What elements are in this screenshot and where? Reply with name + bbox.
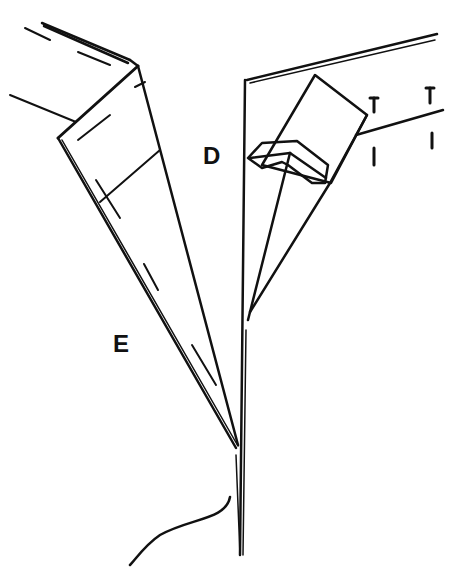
label-d: D <box>203 142 220 170</box>
notch-marks <box>370 88 434 165</box>
center-stem <box>236 80 246 555</box>
left-folded-piece <box>10 23 238 448</box>
diagram-drawing <box>0 0 452 579</box>
label-e: E <box>113 330 129 358</box>
bottom-curve <box>130 497 230 565</box>
right-piece <box>247 34 443 320</box>
pattern-diagram: D E <box>0 0 452 579</box>
